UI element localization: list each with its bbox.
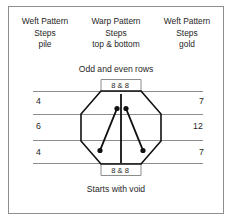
right-step-1: 7 <box>199 96 204 106</box>
left-step-2: 6 <box>36 121 41 131</box>
left-diagonal-group <box>97 106 119 153</box>
right-diagonal-dot-bottom <box>140 148 145 153</box>
left-diagonal-dot-top <box>114 106 119 111</box>
right-diagonal-group <box>123 106 145 153</box>
right-step-2: 12 <box>193 121 203 131</box>
caption-starts-with-void: Starts with void <box>8 184 224 194</box>
right-diagonal-dot-top <box>123 106 128 111</box>
left-diagonal-dot-bottom <box>97 148 102 153</box>
left-step-1: 4 <box>36 96 41 106</box>
left-step-3: 4 <box>36 147 41 157</box>
band-bottom-label: 8 & 8 <box>100 166 140 175</box>
right-step-3: 7 <box>199 147 204 157</box>
figure-canvas: Weft Pattern Steps pile Warp Pattern Ste… <box>0 0 235 223</box>
band-top-label: 8 & 8 <box>100 81 140 90</box>
